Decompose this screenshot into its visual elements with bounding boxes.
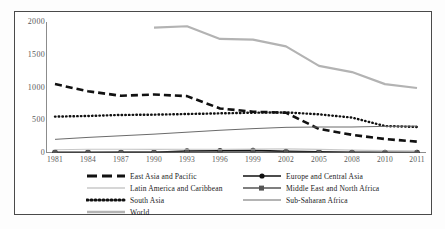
- legend-label: Europe and Central Asia: [286, 172, 363, 181]
- dotted-line-swatch-icon: [86, 195, 126, 205]
- x-tick-label: 1984: [80, 155, 96, 164]
- legend-label: Middle East and North Africa: [286, 184, 379, 193]
- legend-row: East Asia and Pacific Europe and Central…: [46, 170, 426, 182]
- data-point-marker: [152, 150, 156, 153]
- x-tick-label: 2011: [409, 155, 425, 164]
- square-marker-line-swatch-icon: [242, 183, 282, 193]
- legend-item-europe-and-central-asia[interactable]: Europe and Central Asia: [242, 170, 363, 182]
- x-tick-label: 2005: [311, 155, 327, 164]
- y-tick-label: 500: [11, 116, 45, 124]
- data-point-marker: [185, 150, 189, 153]
- line-chart-svg: [46, 22, 426, 153]
- x-tick-label: 2008: [344, 155, 360, 164]
- legend-row: World: [46, 206, 426, 218]
- data-point-marker: [383, 150, 387, 153]
- solid-marker-line-swatch-icon: [242, 171, 282, 181]
- data-point-marker: [284, 150, 288, 153]
- series-sub-saharan-africa: [55, 126, 417, 139]
- legend-label: World: [130, 208, 149, 217]
- legend-label: East Asia and Pacific: [130, 172, 197, 181]
- series-south-asia: [55, 112, 417, 127]
- legend-item-east-asia-and-pacific[interactable]: East Asia and Pacific: [86, 170, 197, 182]
- x-tick-label: 1990: [146, 155, 162, 164]
- legend-label: Sub-Saharan Africa: [286, 196, 348, 205]
- x-tick-label: 1981: [47, 155, 63, 164]
- x-tick-label: 1987: [113, 155, 129, 164]
- legend-label: Latin America and Caribbean: [130, 184, 223, 193]
- x-tick-label: 1996: [212, 155, 228, 164]
- data-point-marker: [317, 150, 321, 153]
- legend-row: South Asia Sub-Saharan Africa: [46, 194, 426, 206]
- y-tick-label: 0: [11, 149, 45, 157]
- data-point-marker: [415, 150, 419, 153]
- thin-solid-line-swatch-icon: [242, 195, 282, 205]
- chart-figure-frame: 2000 1500 1000 500 0 1981 1984 1987 1990…: [14, 11, 432, 215]
- legend-item-middle-east-and-north-africa[interactable]: Middle East and North Africa: [242, 182, 379, 194]
- data-point-marker: [53, 150, 57, 153]
- legend-item-sub-saharan-africa[interactable]: Sub-Saharan Africa: [242, 194, 348, 206]
- legend-row: Latin America and Caribbean Middle East …: [46, 182, 426, 194]
- data-point-marker: [86, 150, 90, 153]
- legend-item-latin-america-and-caribbean[interactable]: Latin America and Caribbean: [86, 182, 223, 194]
- x-tick-label: 1999: [245, 155, 261, 164]
- chart-legend: East Asia and Pacific Europe and Central…: [46, 170, 426, 212]
- x-tick-label: 1993: [179, 155, 195, 164]
- x-tick-label: 2002: [278, 155, 294, 164]
- y-axis: 2000 1500 1000 500 0: [11, 22, 45, 153]
- x-axis: 1981 1984 1987 1990 1993 1996 1999 2002 …: [46, 155, 426, 167]
- data-point-marker: [350, 150, 354, 153]
- dashed-line-swatch-icon: [86, 171, 126, 181]
- plot-area: [46, 22, 426, 153]
- chart-screenshot: 2000 1500 1000 500 0 1981 1984 1987 1990…: [0, 0, 445, 229]
- data-point-marker: [119, 150, 123, 153]
- data-point-marker: [218, 150, 222, 153]
- legend-item-world[interactable]: World: [86, 206, 149, 218]
- x-tick-label: 2010: [377, 155, 393, 164]
- y-tick-label: 2000: [11, 18, 45, 26]
- legend-item-south-asia[interactable]: South Asia: [86, 194, 164, 206]
- y-tick-label: 1000: [11, 84, 45, 92]
- light-gray-line-swatch-icon: [86, 183, 126, 193]
- data-point-marker: [251, 150, 255, 153]
- legend-label: South Asia: [130, 196, 164, 205]
- series-world: [154, 26, 417, 88]
- gray-line-swatch-icon: [86, 207, 126, 217]
- y-tick-label: 1500: [11, 51, 45, 59]
